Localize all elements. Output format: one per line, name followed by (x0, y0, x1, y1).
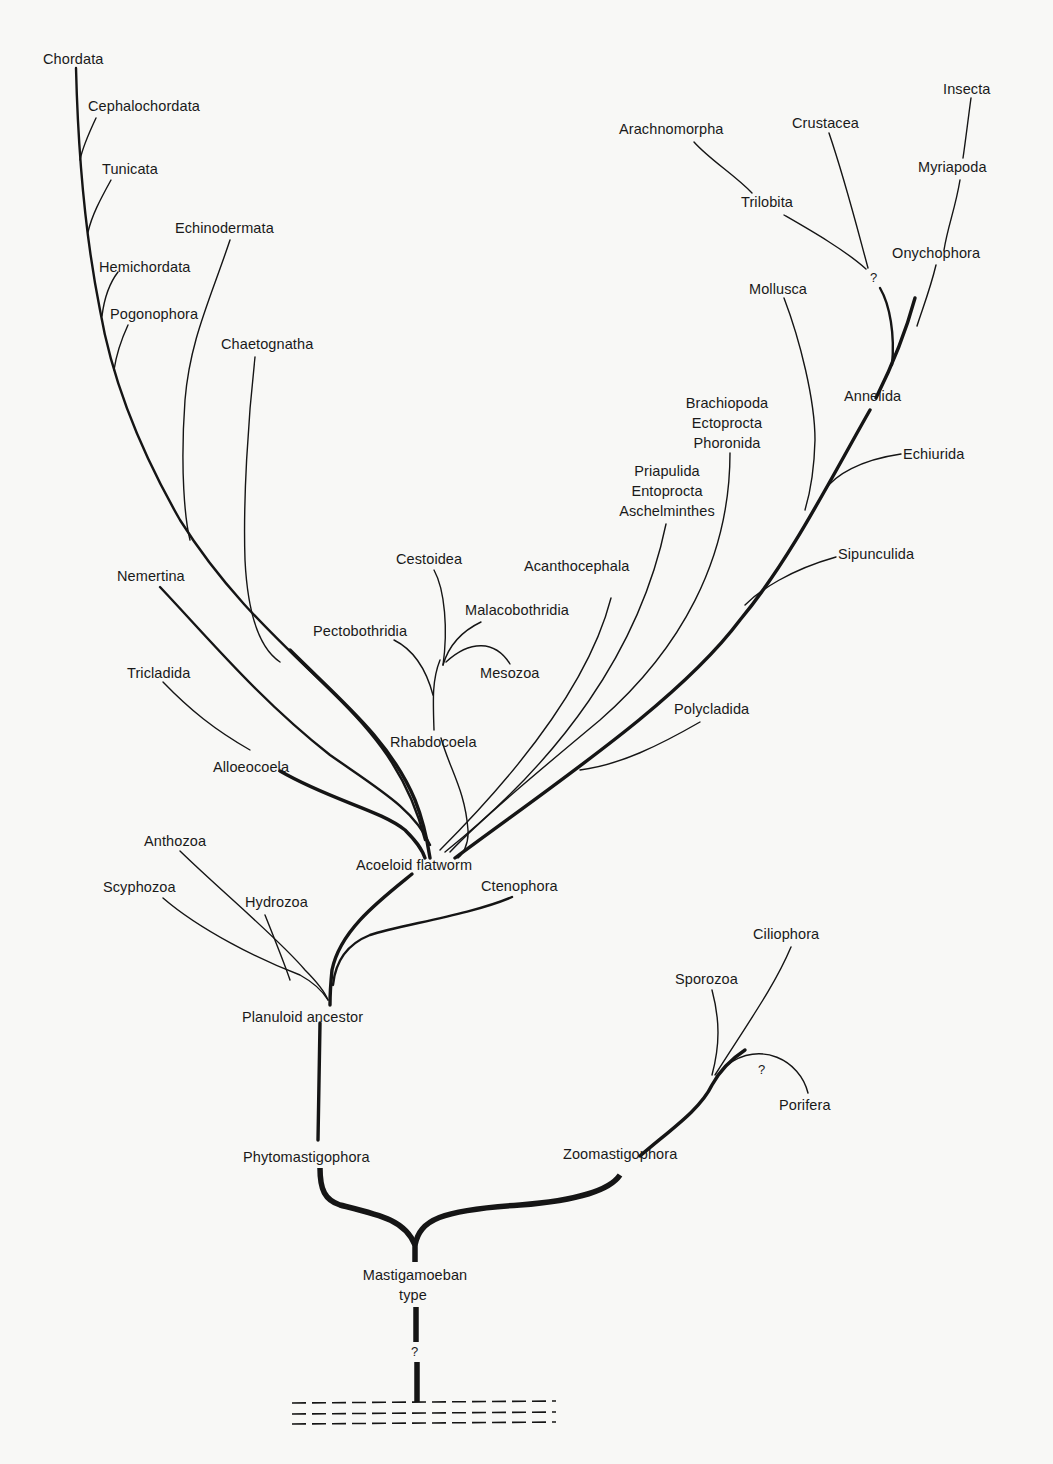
label-arachnomorpha: Arachnomorpha (619, 120, 723, 138)
branch-tunicata (88, 180, 111, 232)
branch-tricladida (163, 682, 250, 750)
branch-sporozoa (712, 990, 718, 1075)
label-annelida: Annelida (844, 387, 901, 405)
branch-rhabdocoela-stem (433, 660, 440, 730)
label-priapulida: Priapulida (634, 462, 700, 480)
branch-porifera (727, 1054, 808, 1093)
label-zoomastigophora: Zoomastigophora (563, 1145, 677, 1163)
branch-arthropod-q (880, 288, 893, 365)
label-acanthocephala: Acanthocephala (524, 557, 629, 575)
branch-chaetognatha (245, 357, 280, 662)
baseline-dashed-1 (292, 1401, 556, 1403)
label-mastigamoeban: Mastigamoeban (363, 1266, 467, 1284)
label-hemichordata: Hemichordata (99, 258, 190, 276)
branch-mollusca (784, 298, 815, 510)
branch-hydrozoa (265, 915, 290, 980)
branch-mesozoa (446, 646, 510, 664)
label-planuloid-ancestor: Planuloid ancestor (242, 1008, 363, 1026)
label-pectobothridia: Pectobothridia (313, 622, 407, 640)
label-phoronida: Phoronida (693, 434, 760, 452)
branch-insecta (963, 98, 971, 158)
label-tricladida: Tricladida (127, 664, 190, 682)
branch-chordata (76, 68, 425, 840)
label-mesozoa: Mesozoa (480, 664, 540, 682)
label-porifera: Porifera (779, 1096, 831, 1114)
phylogenetic-tree (0, 0, 1053, 1464)
branch-myriapoda (944, 180, 960, 250)
label-mollusca: Mollusca (749, 280, 807, 298)
label-cephalochordata: Cephalochordata (88, 97, 200, 115)
label-ectoprocta: Ectoprocta (692, 414, 762, 432)
branch-pogonophora (114, 325, 128, 370)
label-echinodermata: Echinodermata (175, 219, 274, 237)
branch-planuloid-trunk (318, 1023, 320, 1140)
branch-cestoidea (434, 570, 445, 665)
label-polycladida: Polycladida (674, 700, 749, 718)
branch-zoomastigophora (415, 1175, 620, 1245)
label-mastigamoeban-type: type (399, 1286, 427, 1304)
label-pogonophora: Pogonophora (110, 305, 198, 323)
branch-zoomastigophora-upper (640, 1050, 745, 1156)
baseline-dashed-3 (292, 1422, 556, 1424)
label-sporozoa: Sporozoa (675, 970, 738, 988)
branch-polycladida (580, 722, 700, 770)
uncertain-marker-porifera: ? (758, 1062, 765, 1077)
branch-ciliophora (715, 947, 791, 1075)
label-nemertina: Nemertina (117, 567, 185, 585)
branch-cephalochordata (80, 118, 96, 160)
branch-acoeloid-stem (330, 874, 412, 1005)
label-insecta: Insecta (943, 80, 990, 98)
label-scyphozoa: Scyphozoa (103, 878, 176, 896)
branch-echinodermata (183, 240, 230, 540)
label-aschelminthes: Aschelminthes (619, 502, 715, 520)
branch-malacobothridia (443, 622, 481, 665)
label-chaetognatha: Chaetognatha (221, 335, 313, 353)
branch-crustacea (829, 133, 868, 268)
baseline-dashed-2 (292, 1412, 556, 1414)
label-ctenophora: Ctenophora (481, 877, 558, 895)
label-ciliophora: Ciliophora (753, 925, 819, 943)
branch-rhabdocoela (441, 738, 468, 858)
uncertain-marker-root: ? (411, 1344, 418, 1359)
label-entoprocta: Entoprocta (631, 482, 702, 500)
label-hydrozoa: Hydrozoa (245, 893, 308, 911)
branch-scyphozoa (163, 898, 328, 1000)
label-crustacea: Crustacea (792, 114, 859, 132)
label-tunicata: Tunicata (102, 160, 158, 178)
branch-protostome-main-upper (876, 298, 915, 398)
label-anthozoa: Anthozoa (144, 832, 206, 850)
label-rhabdocoela: Rhabdocoela (390, 733, 477, 751)
label-echiurida: Echiurida (903, 445, 964, 463)
label-acoeloid-flatworm: Acoeloid flatworm (356, 856, 472, 874)
branch-onychophora (917, 265, 936, 326)
branch-trilobita (784, 215, 866, 269)
branch-ctenophora (333, 897, 512, 985)
label-onychophora: Onychophora (892, 244, 980, 262)
label-malacobothridia: Malacobothridia (465, 601, 569, 619)
label-myriapoda: Myriapoda (918, 158, 987, 176)
label-trilobita: Trilobita (741, 193, 793, 211)
label-alloeocoela: Alloeocoela (213, 758, 289, 776)
label-brachiopoda: Brachiopoda (686, 394, 769, 412)
branch-left-mid (290, 650, 430, 858)
label-chordata: Chordata (43, 50, 103, 68)
branch-phytomastigophora (320, 1168, 415, 1245)
branch-arachnomorpha (694, 142, 752, 193)
label-sipunculida: Sipunculida (838, 545, 914, 563)
branch-pectobothridia (394, 640, 433, 695)
label-cestoidea: Cestoidea (396, 550, 462, 568)
label-phytomastigophora: Phytomastigophora (243, 1148, 370, 1166)
uncertain-marker-arthropods: ? (870, 270, 877, 285)
